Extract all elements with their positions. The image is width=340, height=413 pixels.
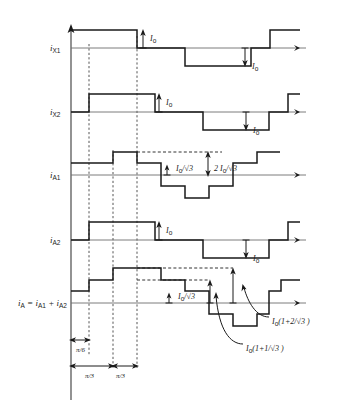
trace-ix2: iX2 Io Io [50,93,306,136]
dimension-pi-over-3-second: π/3 [111,363,139,380]
vertical-guide-lines [89,36,137,368]
trace-ix1: iX1 Io Io [50,29,306,72]
dimension-pi-over-6: π/6 [69,337,91,354]
amplitude-marker-ix2-neg [243,112,250,131]
trace-label-ia2: iA2 [50,235,61,246]
trace-label-ix2: iX2 [50,107,61,118]
trace-ia2: iA2 Io Io [50,221,306,264]
callout-label-1-plus-1-over-root3: Io(1+1/√3 ) [245,344,284,354]
waveform-diagram: iX1 Io Io iX2 [0,0,340,413]
amplitude-label-ia2-neg: Io [252,254,260,264]
dimension-pi-over-3-first: π/3 [69,363,115,380]
amplitude-marker-iasum-small [166,293,173,304]
trace-label-ix1: iX1 [50,43,61,54]
trace-ia-sum: iA = iA1 + iA2 Io/√3 [18,268,310,355]
figure-page: iX1 Io Io iX2 [0,0,340,413]
amplitude-marker-ia2-pos [156,221,163,240]
amplitude-label-ix1-pos: Io [149,34,157,44]
amplitude-marker-ia1-large [205,151,210,177]
dimension-label-pi-over-3-second: π/3 [116,372,125,380]
leader-line-1-plus-2-over-root3 [242,284,270,317]
leader-line-1-plus-1-over-root3 [213,292,243,344]
amplitude-label-ia1-small: Io/√3 [175,164,193,174]
dimension-label-pi-over-3-first: π/3 [85,372,94,380]
main-vertical-axis [68,24,75,400]
callout-label-1-plus-2-over-root3: Io(1+2/√3 ) [271,317,310,327]
measure-arrow-1-plus-2-over-root3 [230,268,237,304]
amplitude-marker-ia2-neg [243,240,250,259]
amplitude-label-ix2-neg: Io [252,126,260,136]
trace-label-ia-sum: iA = iA1 + iA2 [18,298,67,309]
amplitude-label-ix1-neg: Io [251,62,259,72]
trace-label-ia1: iA1 [50,170,61,181]
amplitude-marker-ia1-small [164,165,171,176]
amplitude-marker-ix1-pos [140,29,147,48]
dimension-label-pi-over-6: π/6 [76,346,85,354]
amplitude-label-ix2-pos: Io [165,98,173,108]
amplitude-label-ia2-pos: Io [165,226,173,236]
amplitude-label-iasum-small: Io/√3 [177,292,195,302]
amplitude-marker-ix1-neg [242,48,249,67]
amplitude-label-ia1-large: 2 Io/√3 [214,164,237,174]
trace-ia1: iA1 Io/√3 2 Io/√3 [50,151,306,198]
amplitude-marker-ix2-pos [156,93,163,112]
